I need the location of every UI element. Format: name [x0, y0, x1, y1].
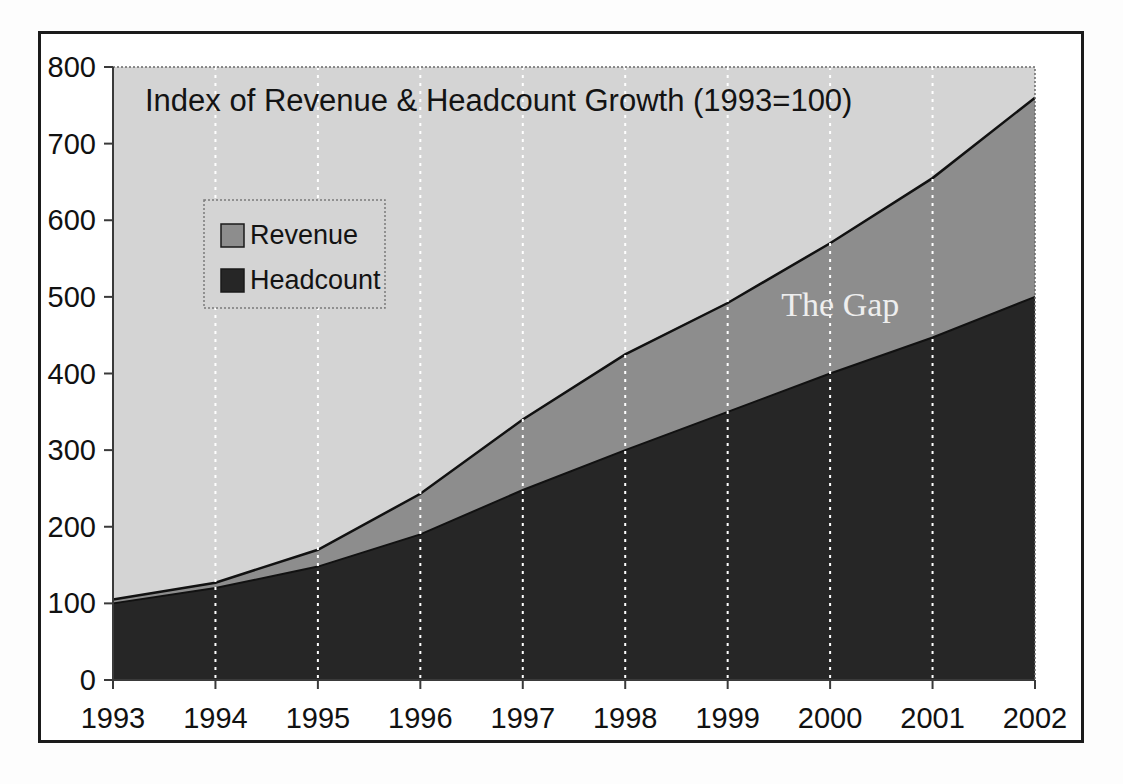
x-tick-label-2000: 2000: [798, 702, 863, 734]
x-tick-label-2001: 2001: [900, 702, 965, 734]
gap-annotation: The Gap: [781, 286, 899, 323]
x-axis: 1993199419951996199719981999200020012002: [81, 680, 1068, 734]
y-tick-label-100: 100: [48, 587, 96, 619]
x-tick-label-1993: 1993: [81, 702, 146, 734]
y-tick-label-600: 600: [48, 204, 96, 236]
legend-label-revenue: Revenue: [250, 220, 358, 250]
legend-label-headcount: Headcount: [250, 265, 381, 295]
y-tick-label-400: 400: [48, 358, 96, 390]
x-tick-label-1998: 1998: [593, 702, 658, 734]
y-tick-label-200: 200: [48, 511, 96, 543]
y-tick-label-300: 300: [48, 434, 96, 466]
x-tick-label-1996: 1996: [388, 702, 453, 734]
area-chart: 0100200300400500600700800 19931994199519…: [41, 34, 1081, 740]
y-tick-label-800: 800: [48, 51, 96, 83]
x-tick-label-1994: 1994: [183, 702, 248, 734]
chart-title: Index of Revenue & Headcount Growth (199…: [145, 83, 852, 118]
x-tick-label-1999: 1999: [695, 702, 760, 734]
legend-item-revenue[interactable]: Revenue: [221, 220, 358, 250]
y-tick-label-700: 700: [48, 128, 96, 160]
legend-swatch-headcount: [221, 269, 244, 292]
y-tick-label-500: 500: [48, 281, 96, 313]
legend-swatch-revenue: [221, 224, 244, 247]
y-tick-label-0: 0: [80, 664, 96, 696]
chart-frame: 0100200300400500600700800 19931994199519…: [38, 31, 1084, 743]
x-tick-label-2002: 2002: [1003, 702, 1068, 734]
x-tick-label-1995: 1995: [286, 702, 351, 734]
chart-legend[interactable]: Revenue Headcount: [204, 200, 385, 308]
x-tick-label-1997: 1997: [491, 702, 556, 734]
y-axis: 0100200300400500600700800: [48, 51, 113, 696]
